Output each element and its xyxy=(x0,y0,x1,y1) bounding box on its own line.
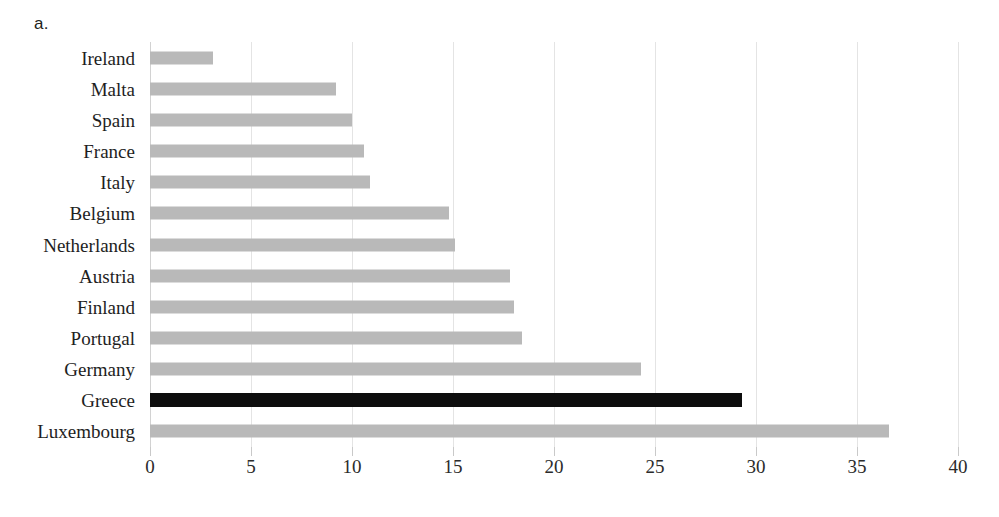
bar-spain xyxy=(150,113,352,126)
category-label-austria: Austria xyxy=(79,266,135,285)
bar-finland xyxy=(150,300,514,313)
x-tick-label: 20 xyxy=(545,456,564,478)
tickmark-0 xyxy=(150,447,151,456)
bar-ireland xyxy=(150,51,213,64)
category-label-spain: Spain xyxy=(92,110,135,129)
category-label-ireland: Ireland xyxy=(81,48,135,67)
x-tick-label: 0 xyxy=(145,456,155,478)
x-tick-label: 35 xyxy=(848,456,867,478)
x-axis-tickmarks xyxy=(150,447,958,456)
gridline-40 xyxy=(958,42,959,447)
tickmark-40 xyxy=(958,447,959,456)
tickmark-20 xyxy=(554,447,555,456)
gridline-30 xyxy=(756,42,757,447)
gridline-35 xyxy=(857,42,858,447)
bar-luxembourg xyxy=(150,425,889,438)
bar-belgium xyxy=(150,207,449,220)
x-axis-tick-labels: 0510152025303540 xyxy=(0,456,999,484)
gridline-20 xyxy=(554,42,555,447)
tickmark-10 xyxy=(352,447,353,456)
category-label-malta: Malta xyxy=(91,79,135,98)
tickmark-5 xyxy=(251,447,252,456)
bar-portugal xyxy=(150,331,522,344)
category-label-netherlands: Netherlands xyxy=(43,235,135,254)
category-label-belgium: Belgium xyxy=(70,204,135,223)
x-tick-label: 25 xyxy=(646,456,665,478)
x-tick-label: 15 xyxy=(444,456,463,478)
chart-plot-area xyxy=(150,42,958,447)
category-label-luxembourg: Luxembourg xyxy=(37,422,135,441)
bar-germany xyxy=(150,363,641,376)
bar-greece xyxy=(150,393,742,407)
category-label-portugal: Portugal xyxy=(71,328,135,347)
bar-italy xyxy=(150,176,370,189)
bar-malta xyxy=(150,82,336,95)
gridline-25 xyxy=(655,42,656,447)
x-tick-label: 5 xyxy=(246,456,256,478)
y-axis-category-labels: IrelandMaltaSpainFranceItalyBelgiumNethe… xyxy=(0,42,144,447)
tickmark-30 xyxy=(756,447,757,456)
category-label-france: France xyxy=(83,142,135,161)
category-label-germany: Germany xyxy=(64,360,135,379)
category-label-greece: Greece xyxy=(81,391,135,410)
tickmark-25 xyxy=(655,447,656,456)
bar-netherlands xyxy=(150,238,455,251)
x-tick-label: 10 xyxy=(343,456,362,478)
x-tick-label: 30 xyxy=(747,456,766,478)
bar-austria xyxy=(150,269,510,282)
category-label-italy: Italy xyxy=(100,173,135,192)
category-label-finland: Finland xyxy=(77,297,135,316)
tickmark-35 xyxy=(857,447,858,456)
figure-panel-a: a. 0510152025303540 IrelandMaltaSpainFra… xyxy=(0,0,999,517)
panel-letter-label: a. xyxy=(34,14,49,34)
bar-france xyxy=(150,145,364,158)
x-tick-label: 40 xyxy=(949,456,968,478)
tickmark-15 xyxy=(453,447,454,456)
